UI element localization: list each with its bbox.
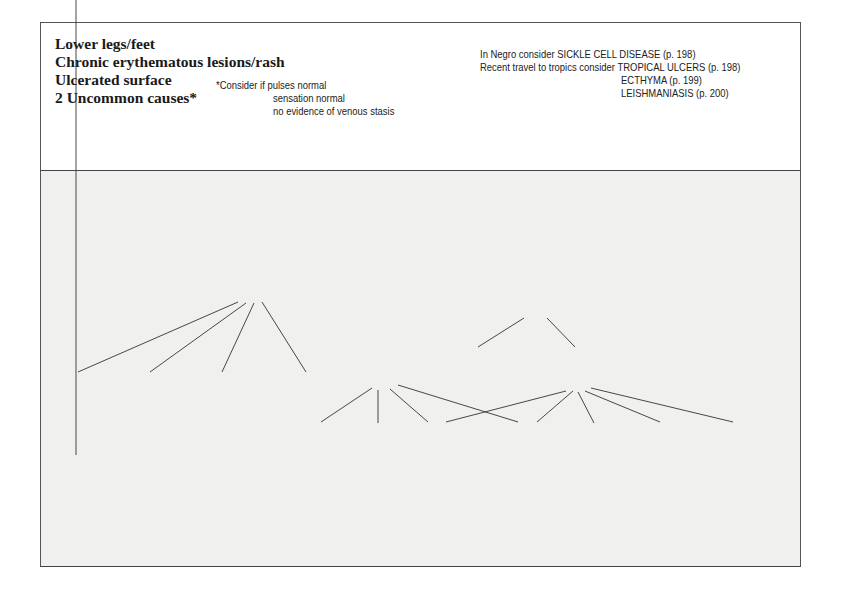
footnote-line-2: sensation normal [273,92,345,105]
consider-line-4: LEISHMANIASIS (p. 200) [621,87,729,100]
consider-line-2: Recent travel to tropics consider TROPIC… [480,61,741,74]
consider-line-3: ECTHYMA (p. 199) [621,74,702,87]
diagram-panel [40,170,801,567]
consider-line-1: In Negro consider SICKLE CELL DISEASE (p… [480,48,696,61]
title-line-3: Ulcerated surface [55,71,172,89]
footnote-line-1: *Consider if pulses normal [216,79,326,92]
footnote-line-3: no evidence of venous stasis [273,105,394,118]
title-line-4: 2 Uncommon causes* [55,89,197,107]
title-line-1: Lower legs/feet [55,35,155,53]
title-line-2: Chronic erythematous lesions/rash [55,53,285,71]
